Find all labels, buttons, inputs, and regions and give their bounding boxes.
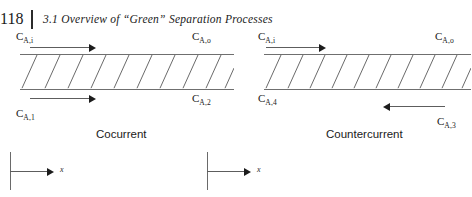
channel-hatch-lines xyxy=(20,55,234,88)
axis-label-x: x xyxy=(257,165,261,174)
label-inlet-top-countercurrent: CA,i xyxy=(258,30,275,42)
axis-direction-arrow xyxy=(10,167,54,176)
arrow-shaft xyxy=(10,171,47,172)
arrow-shaft xyxy=(390,106,445,107)
arrow-head xyxy=(89,44,96,52)
arrow-head xyxy=(89,95,96,103)
top-flow-arrow-cocurrent xyxy=(30,43,96,52)
label-outlet-top-cocurrent: CA,o xyxy=(192,30,211,42)
arrow-shaft xyxy=(266,47,319,48)
bottom-flow-arrow-cocurrent xyxy=(30,94,96,103)
axis-label-x: x xyxy=(60,165,64,174)
channel-countercurrent xyxy=(264,54,471,90)
label-outlet-bottom-countercurrent: CA,4 xyxy=(258,92,277,104)
arrow-head xyxy=(319,44,326,52)
arrow-head xyxy=(47,168,54,176)
separation-process-figure: CA,i CA,o C xyxy=(0,0,472,197)
channel-hatch-lines xyxy=(264,55,471,88)
label-inlet-bottom-countercurrent: CA,3 xyxy=(437,115,456,127)
bottom-flow-arrow-countercurrent xyxy=(383,102,445,111)
caption-cocurrent: Cocurrent xyxy=(96,128,147,140)
channel-wall-bottom xyxy=(20,89,234,90)
axis-indicator-cocurrent: x xyxy=(8,152,88,192)
arrow-head xyxy=(244,168,251,176)
arrow-shaft xyxy=(30,98,89,99)
label-inlet-bottom-cocurrent: CA,1 xyxy=(16,107,35,119)
label-inlet-top-cocurrent: CA,i xyxy=(16,30,33,42)
label-outlet-top-countercurrent: CA,o xyxy=(435,30,454,42)
axis-direction-arrow xyxy=(207,167,251,176)
channel-cocurrent xyxy=(20,54,234,90)
caption-countercurrent: Countercurrent xyxy=(326,128,403,140)
top-flow-arrow-countercurrent xyxy=(266,43,326,52)
arrow-shaft xyxy=(30,47,89,48)
axis-indicator-countercurrent: x xyxy=(205,152,285,192)
label-outlet-bottom-cocurrent: CA,2 xyxy=(192,92,211,104)
arrow-shaft xyxy=(207,171,244,172)
arrow-head xyxy=(383,103,390,111)
channel-wall-bottom xyxy=(264,89,471,90)
